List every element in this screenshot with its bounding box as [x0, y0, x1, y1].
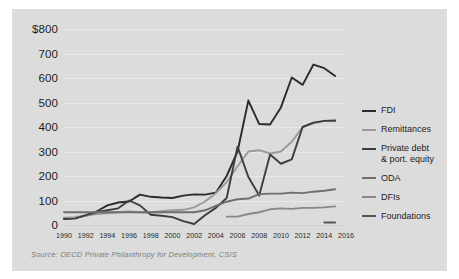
legend-swatch [362, 129, 376, 131]
y-tick-label: 300 [39, 146, 59, 158]
legend-item[interactable]: FDI [362, 105, 446, 116]
x-tick-label: 2006 [230, 231, 246, 240]
legend-item[interactable]: Private debt & port. equity [362, 143, 446, 164]
x-tick-label: 2008 [251, 231, 267, 240]
x-tick-label: 2002 [186, 231, 202, 240]
legend-label: DFIs [381, 192, 400, 203]
legend-item[interactable]: Foundations [362, 211, 446, 222]
legend-label: Private debt & port. equity [381, 143, 434, 164]
legend-item[interactable]: ODA [362, 173, 446, 184]
y-tick-label: 700 [39, 48, 59, 60]
y-tick-label: 100 [39, 195, 59, 207]
x-tick-label: 2004 [208, 231, 224, 240]
y-tick-label: 600 [39, 72, 59, 84]
x-tick-label: 1994 [99, 231, 115, 240]
x-tick-label: 1998 [143, 231, 159, 240]
chart-legend: FDIRemittancesPrivate debt & port. equit… [362, 105, 446, 230]
y-axis-labels: $8007006005004003002001000 [12, 29, 58, 225]
x-tick-label: 2010 [273, 231, 289, 240]
legend-swatch [362, 148, 376, 150]
series-lines [64, 29, 346, 225]
chart-card: $8007006005004003002001000 1990199219941… [12, 9, 447, 271]
legend-swatch [362, 196, 376, 198]
legend-label: Remittances [381, 124, 431, 135]
x-tick-label: 2014 [316, 231, 332, 240]
gridline [64, 225, 346, 226]
series-line [227, 206, 335, 216]
legend-swatch [362, 110, 376, 112]
legend-item[interactable]: DFIs [362, 192, 446, 203]
legend-swatch [362, 215, 376, 217]
x-tick-label: 2000 [164, 231, 180, 240]
x-tick-label: 1990 [56, 231, 72, 240]
series-line [64, 120, 335, 218]
y-tick-label: 400 [39, 121, 59, 133]
legend-item[interactable]: Remittances [362, 124, 446, 135]
legend-label: Foundations [381, 211, 431, 222]
legend-swatch [362, 177, 376, 179]
legend-label: ODA [381, 173, 401, 184]
x-tick-label: 2016 [338, 231, 354, 240]
legend-label: FDI [381, 105, 396, 116]
plot-area [64, 29, 346, 225]
x-tick-label: 2012 [295, 231, 311, 240]
x-axis-labels: 1990199219941996199820002002200420062008… [64, 229, 346, 243]
x-tick-label: 1996 [121, 231, 137, 240]
x-tick-label: 1992 [78, 231, 94, 240]
y-tick-label: 200 [39, 170, 59, 182]
y-tick-label: 500 [39, 97, 59, 109]
y-tick-label: $800 [32, 23, 58, 35]
source-caption: Source: OECD Private Philanthropy for De… [31, 250, 237, 259]
series-line [64, 65, 335, 219]
y-tick-label: 0 [52, 219, 59, 231]
